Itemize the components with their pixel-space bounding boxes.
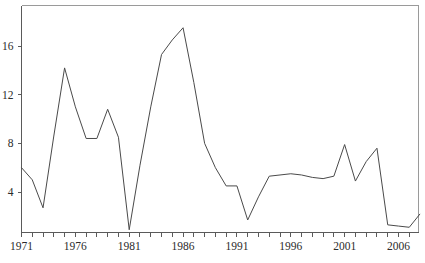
x-tick-label: 1986 (172, 240, 195, 252)
chart-background (0, 0, 425, 263)
x-tick-label: 1976 (64, 240, 87, 252)
x-tick-label: 1981 (118, 240, 141, 252)
y-tick-label: 16 (2, 40, 14, 52)
x-tick-label: 1991 (225, 240, 248, 252)
x-tick-label: 1996 (279, 240, 302, 252)
line-chart-figure: 19711976198119861991199620012006 481216 (0, 0, 425, 263)
x-tick-label: 2001 (333, 240, 356, 252)
chart-canvas: 19711976198119861991199620012006 481216 (0, 0, 425, 263)
x-tick-label: 1971 (10, 240, 33, 252)
y-tick-label: 12 (2, 89, 14, 101)
x-tick-label: 2006 (387, 240, 410, 252)
y-tick-label: 4 (8, 186, 14, 198)
y-tick-label: 8 (8, 137, 14, 149)
